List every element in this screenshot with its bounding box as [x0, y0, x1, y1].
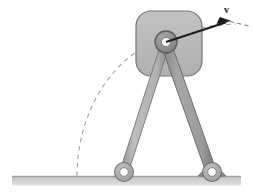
right-ground-joint: [203, 163, 222, 182]
mechanism-figure: v: [0, 0, 253, 195]
left-ground-joint: [115, 163, 134, 182]
velocity-vector-label: v: [224, 5, 229, 15]
mechanism-drawing-canvas: [0, 0, 253, 195]
